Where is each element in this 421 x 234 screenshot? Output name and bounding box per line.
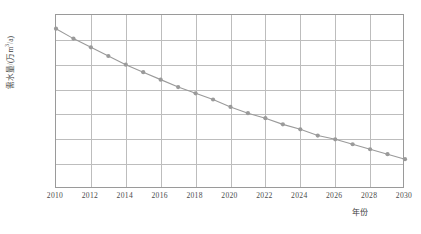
data-point: [89, 45, 93, 49]
plot-area: [55, 14, 404, 188]
data-point: [316, 133, 320, 137]
x-axis-tick-labels: 2010201220142016201820202022202420262028…: [0, 192, 421, 206]
data-point: [403, 157, 407, 161]
data-point: [298, 127, 302, 131]
y-axis-title: 需水量/(万m3/a): [5, 15, 14, 111]
x-tick-label: 2026: [326, 192, 342, 200]
x-tick-label: 2024: [291, 192, 307, 200]
x-tick-label: 2022: [256, 192, 272, 200]
data-point: [71, 37, 75, 41]
data-point: [333, 137, 337, 141]
x-tick-label: 2030: [396, 192, 412, 200]
data-point: [159, 78, 163, 82]
x-axis-title: 年份: [352, 209, 368, 217]
data-point: [246, 111, 250, 115]
data-point: [385, 152, 389, 156]
data-point: [228, 105, 232, 109]
series-markers: [54, 27, 407, 162]
data-point: [141, 70, 145, 74]
x-tick-label: 2020: [221, 192, 237, 200]
data-point: [176, 85, 180, 89]
data-series-layer: [56, 15, 405, 189]
x-tick-label: 2028: [361, 192, 377, 200]
data-point: [263, 116, 267, 120]
data-point: [368, 147, 372, 151]
data-point: [54, 27, 58, 31]
series-line: [56, 29, 405, 160]
data-point: [124, 63, 128, 67]
x-tick-label: 2014: [117, 192, 133, 200]
x-tick-label: 2016: [151, 192, 167, 200]
data-point: [194, 91, 198, 95]
data-point: [351, 142, 355, 146]
data-point: [211, 97, 215, 101]
data-point: [106, 54, 110, 58]
x-tick-label: 2018: [186, 192, 202, 200]
x-tick-label: 2010: [47, 192, 63, 200]
x-tick-label: 2012: [82, 192, 98, 200]
data-point: [281, 122, 285, 126]
chart-figure: 2525.225.425.625.82626.226.4 20102012201…: [0, 0, 421, 234]
